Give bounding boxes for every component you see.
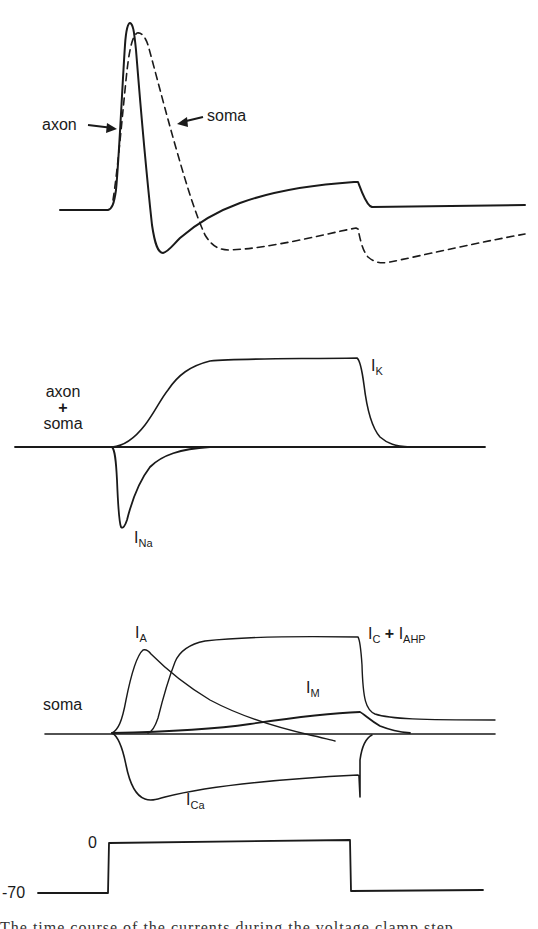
label-axon-plus-soma: axon + soma: [37, 384, 89, 432]
iahp-sub: AHP: [403, 633, 426, 645]
panel-soma-currents: [45, 637, 495, 800]
label-ic-iahp: IC + IAHP: [368, 626, 426, 645]
soma-trace: [113, 33, 525, 263]
ica-sub: Ca: [190, 799, 204, 811]
label-soma-top: soma: [207, 108, 246, 124]
label-soma-middle: soma: [37, 416, 89, 432]
panel-step-command: [38, 840, 483, 893]
tick-label-neg70mv: -70: [2, 885, 25, 901]
label-ina: INa: [134, 530, 153, 549]
axon-arrow: [88, 123, 117, 133]
label-im: IM: [306, 680, 320, 699]
panel-action-potentials: [60, 23, 525, 263]
soma-arrow: [177, 117, 203, 127]
ic-plus: +: [380, 625, 398, 642]
caption-fragment: The time course of the currents during t…: [0, 918, 538, 929]
step-trace: [38, 840, 483, 893]
im-sub: M: [310, 687, 319, 699]
ik-sub: K: [375, 365, 382, 377]
ina-sub: Na: [138, 537, 152, 549]
label-plus: +: [37, 400, 89, 416]
ina-trace: [112, 447, 210, 528]
axon-trace: [60, 23, 525, 253]
label-axon-middle: axon: [37, 384, 89, 400]
label-ik: IK: [371, 358, 383, 377]
ik-trace: [112, 358, 410, 447]
figure-canvas: [0, 0, 538, 929]
ica-trace: [112, 733, 372, 800]
label-soma-bottom: soma: [43, 697, 82, 713]
label-ica: ICa: [186, 792, 205, 811]
caption-text: The time course of the currents during t…: [0, 920, 538, 929]
tick-label-0mv: 0: [88, 835, 97, 851]
label-ia: IA: [135, 625, 147, 644]
label-axon: axon: [42, 117, 77, 133]
ia-sub: A: [139, 632, 146, 644]
ic-ahp-trace: [148, 637, 495, 733]
